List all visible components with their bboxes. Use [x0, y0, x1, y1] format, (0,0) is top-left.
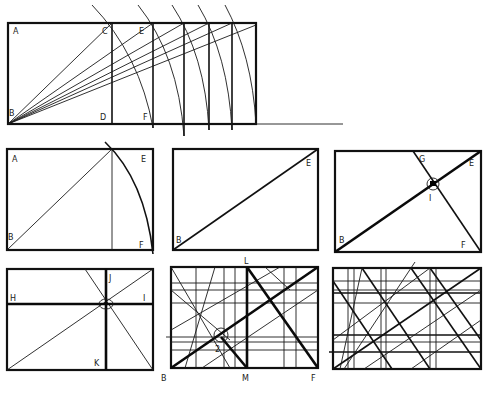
- label-b: B: [176, 236, 182, 245]
- eye-point-mark: [430, 181, 436, 186]
- label-k: K: [94, 359, 100, 368]
- label-b: B: [9, 109, 15, 118]
- label-j: J: [108, 274, 111, 283]
- grid-diag: [171, 267, 280, 330]
- reciprocal: [85, 269, 153, 370]
- frame: [7, 149, 153, 250]
- panel-harmonic-grid: L 2 B M F: [161, 257, 318, 383]
- label-b: B: [161, 374, 167, 383]
- label-d: D: [100, 113, 106, 122]
- grid-diag: [430, 268, 481, 340]
- label-g: G: [419, 155, 425, 164]
- grid-diag: [171, 267, 230, 368]
- diagonal-2: [8, 23, 153, 124]
- panel-eye-point: J H I K: [7, 269, 153, 370]
- label-e: E: [139, 27, 144, 36]
- label-m: M: [242, 374, 249, 383]
- grid-diag: [344, 262, 415, 369]
- label-h: H: [10, 294, 16, 303]
- label-e: E: [469, 159, 474, 168]
- panel-full-grid: [329, 262, 481, 369]
- label-e: E: [306, 159, 311, 168]
- diagram-canvas: A C E B D F A E B F E B G E I B F: [0, 0, 492, 395]
- label-f: F: [461, 241, 466, 250]
- grid-diag: [411, 320, 481, 369]
- diagonal-6: [8, 25, 256, 124]
- diagonal-5: [8, 23, 232, 124]
- label-i: I: [429, 194, 431, 203]
- label-i: I: [143, 294, 145, 303]
- diagonal-4: [8, 23, 209, 124]
- diagonal-be: [173, 149, 318, 250]
- label-f: F: [311, 374, 316, 383]
- label-b: B: [8, 233, 14, 242]
- label-f: F: [139, 241, 144, 250]
- grid-diag: [185, 267, 215, 368]
- label-a: A: [12, 155, 18, 164]
- label-c: C: [102, 27, 108, 36]
- panel-reciprocal: G E I B F: [335, 151, 481, 252]
- diagonal-be: [335, 151, 481, 252]
- panel-diagonal: E B: [173, 149, 318, 250]
- label-e: E: [141, 155, 146, 164]
- diagonal: [7, 149, 112, 250]
- grid-diag: [362, 268, 430, 369]
- grid-diag: [265, 267, 290, 290]
- reciprocal-lf: [247, 267, 318, 368]
- panel-root-rectangles: A C E B D F: [8, 5, 343, 136]
- label-b: B: [339, 236, 345, 245]
- diagonal: [7, 269, 153, 370]
- label-l: L: [244, 257, 249, 266]
- label-a: A: [13, 27, 19, 36]
- panel-root2: A E B F: [7, 142, 153, 254]
- label-2: 2: [215, 345, 220, 354]
- grid-diag: [411, 268, 481, 369]
- main-diagonal: [333, 268, 481, 369]
- label-f: F: [143, 113, 148, 122]
